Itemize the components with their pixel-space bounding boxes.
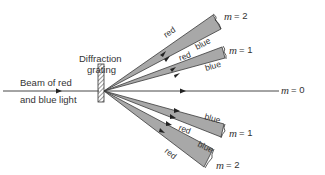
order-label-lower-m2: m = 2 <box>216 159 239 171</box>
order-label-m0: m = 0 <box>281 84 304 96</box>
svg-text:= 0: = 0 <box>291 84 304 95</box>
lower-m2-beam <box>104 91 213 167</box>
order-label-upper-m1: m = 1 <box>229 44 252 56</box>
grating-label-line2: grating <box>87 64 116 75</box>
svg-text:= 1: = 1 <box>239 127 252 138</box>
svg-text:m: m <box>281 84 289 96</box>
svg-text:= 2: = 2 <box>234 10 247 21</box>
order-m0-ray <box>104 89 279 94</box>
svg-text:m: m <box>229 127 237 139</box>
grating-label-line1: Diffraction <box>79 53 122 64</box>
svg-text:= 1: = 1 <box>239 44 252 55</box>
diffraction-grating-diagram: Diffraction grating Beam of red and blue… <box>0 0 325 175</box>
svg-text:m: m <box>229 44 237 56</box>
upper-m2-red-label: red <box>162 24 178 39</box>
order-label-lower-m1: m = 1 <box>229 127 252 139</box>
incident-label-line2: and blue light <box>20 94 77 105</box>
order-label-upper-m2: m = 2 <box>224 10 247 22</box>
svg-text:= 2: = 2 <box>226 159 239 170</box>
svg-text:m: m <box>224 10 232 22</box>
svg-text:m: m <box>216 159 224 171</box>
lower-m2-red-label: red <box>163 146 179 162</box>
incident-label-line1: Beam of red <box>20 77 72 88</box>
incident-beam <box>3 89 99 94</box>
